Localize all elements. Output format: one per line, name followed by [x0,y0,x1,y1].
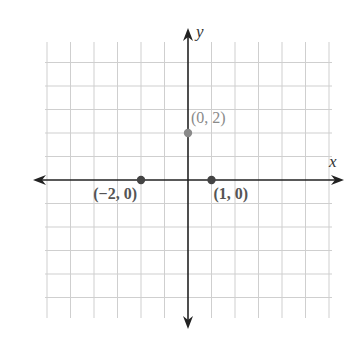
axes: x y [33,22,344,329]
data-point-label: (0, 2) [191,109,226,127]
data-point [137,176,145,184]
data-point-label: (−2, 0) [93,185,137,203]
y-axis-label: y [194,22,204,41]
data-point [184,129,192,137]
coordinate-plane: x y (−2, 0)(1, 0)(0, 2) [0,0,359,338]
x-axis-label: x [328,152,337,171]
data-point-label: (1, 0) [214,185,249,203]
data-point [207,176,215,184]
